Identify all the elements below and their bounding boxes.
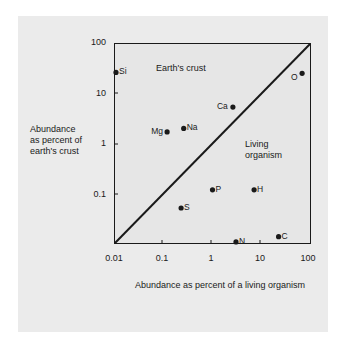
data-point-o [300, 71, 305, 76]
y-tick-label: 100 [76, 37, 106, 47]
data-point-label-si: Si [119, 66, 127, 76]
data-point-si [113, 70, 118, 75]
data-point-p [210, 187, 215, 192]
y-axis-title: Abundance as percent of earth's crust [30, 124, 115, 157]
data-point-label-p: P [216, 184, 222, 194]
x-axis-title: Abundance as percent of a living organis… [100, 280, 339, 290]
region-label-line: organism [245, 150, 282, 161]
y-axis-title-line: earth's crust [30, 146, 115, 157]
x-tick-label: 1 [191, 253, 231, 263]
data-point-mg [165, 129, 170, 134]
data-point-label-c: C [282, 231, 288, 241]
data-point-label-o: O [291, 72, 298, 82]
data-point-c [276, 234, 281, 239]
region-label-living-organism: Living organism [245, 139, 282, 161]
y-axis-title-line: as percent of [30, 135, 115, 146]
plot-overlay [0, 0, 339, 344]
x-tick-label: 100 [288, 253, 328, 263]
y-axis-title-line: Abundance [30, 124, 115, 135]
data-point-s [179, 205, 184, 210]
data-point-label-mg: Mg [151, 126, 163, 136]
x-tick-label: 0.1 [142, 253, 182, 263]
data-point-h [252, 187, 257, 192]
x-tick-label: 10 [240, 253, 280, 263]
region-label-line: Living [245, 139, 282, 150]
data-point-na [181, 126, 186, 131]
data-point-ca [230, 105, 235, 110]
data-point-label-s: S [184, 202, 190, 212]
data-point-label-ca: Ca [217, 101, 228, 111]
y-tick-label: 0.1 [76, 189, 106, 199]
data-point-label-n: N [239, 236, 245, 246]
data-point-label-na: Na [187, 122, 198, 132]
data-point-label-h: H [257, 184, 263, 194]
x-tick-label: 0.01 [94, 253, 134, 263]
region-label-earths-crust: Earth's crust [156, 63, 206, 74]
y-tick-label: 10 [76, 88, 106, 98]
data-point-n [233, 239, 238, 244]
